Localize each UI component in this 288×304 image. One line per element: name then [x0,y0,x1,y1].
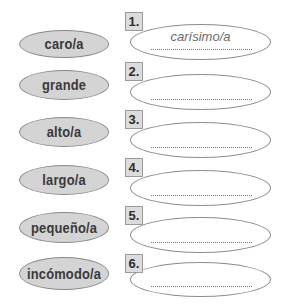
answer-dotted-line [151,49,252,50]
answer-text: carísimo/a [131,29,270,44]
number-badge: 4. [125,158,143,177]
exercise-row-6: incómodo/a 6. [0,252,288,300]
answer-dotted-line [151,99,252,100]
answer-bubble[interactable] [130,262,271,297]
exercise-row-5: pequeño/a 5. [0,204,288,252]
number-badge: 5. [125,206,143,225]
number-badge: 1. [125,12,143,31]
number-badge: 6. [125,254,143,273]
word-bubble: alto/a [19,117,109,147]
answer-dotted-line [151,195,252,196]
answer-dotted-line [151,242,252,243]
word-bubble: largo/a [19,165,109,195]
answer-bubble[interactable] [130,170,271,206]
answer-bubble[interactable] [130,217,271,253]
word-bubble: caro/a [19,30,109,58]
number-badge: 2. [125,62,143,81]
exercise-row-4: largo/a 4. [0,156,288,204]
word-bubble: pequeño/a [19,212,109,243]
answer-bubble[interactable]: carísimo/a [130,24,271,60]
exercise-row-2: grande 2. [0,60,288,108]
word-bubble: incómodo/a [19,257,109,290]
answer-bubble[interactable] [130,122,271,158]
answer-bubble[interactable] [130,74,271,110]
answer-dotted-line [151,286,252,287]
exercise-row-1: caro/a 1. carísimo/a [0,12,288,60]
answer-dotted-line [151,147,252,148]
exercise-row-3: alto/a 3. [0,108,288,156]
word-bubble: grande [19,70,109,100]
number-badge: 3. [125,110,143,129]
